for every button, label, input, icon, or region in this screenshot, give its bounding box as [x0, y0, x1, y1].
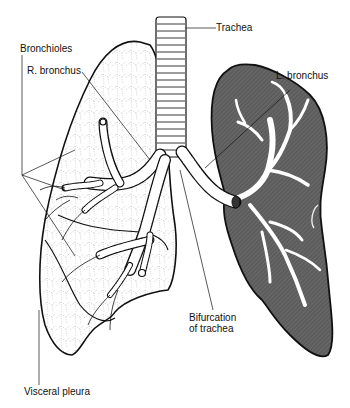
label-bifurcation-line2: of trachea	[189, 323, 233, 334]
label-visceral-pleura: Visceral pleura	[24, 386, 90, 397]
label-l-bronchus: L. bronchus	[276, 70, 328, 81]
label-bifurcation-line1: Bifurcation	[189, 312, 236, 323]
label-trachea: Trachea	[216, 22, 252, 33]
trachea	[156, 17, 186, 157]
label-bronchioles: Bronchioles	[20, 43, 72, 54]
label-r-bronchus: R. bronchus	[27, 65, 81, 76]
lung-diagram	[0, 0, 350, 408]
